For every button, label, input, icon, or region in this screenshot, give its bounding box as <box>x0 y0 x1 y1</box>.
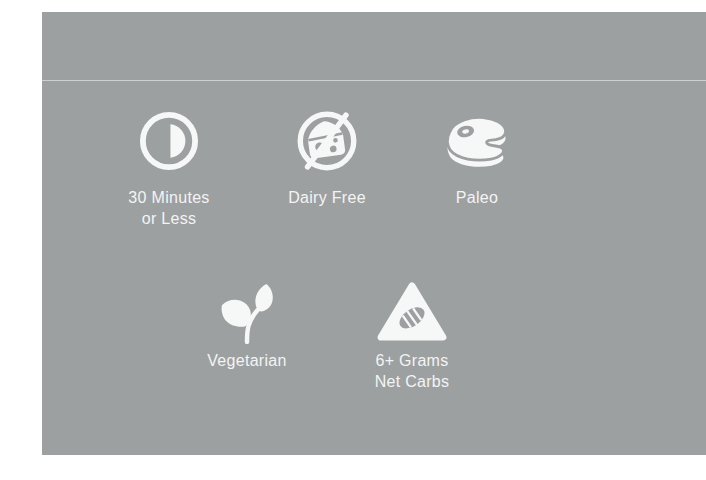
badge-paleo: Paleo <box>402 108 552 208</box>
badge-30-minutes: 30 Minutes or Less <box>94 108 244 229</box>
dairy-free-icon <box>252 108 402 174</box>
badge-label: Paleo <box>402 187 552 208</box>
badge-vegetarian: Vegetarian <box>172 279 322 371</box>
badge-dairy-free: Dairy Free <box>252 108 402 208</box>
vegetarian-sprout-icon <box>172 279 322 345</box>
badge-label: 6+ Grams Net Carbs <box>337 350 487 392</box>
page-background: 30 Minutes or Less <box>0 0 706 480</box>
card-header-divider <box>42 80 706 81</box>
net-carbs-bread-icon <box>337 279 487 345</box>
paleo-steak-icon <box>402 108 552 174</box>
thirty-minutes-icon <box>94 108 244 174</box>
recipe-attributes-card: 30 Minutes or Less <box>42 12 706 455</box>
badge-label: Dairy Free <box>252 187 402 208</box>
badge-label: 30 Minutes or Less <box>94 187 244 229</box>
badge-net-carbs: 6+ Grams Net Carbs <box>337 279 487 392</box>
badge-label: Vegetarian <box>172 350 322 371</box>
